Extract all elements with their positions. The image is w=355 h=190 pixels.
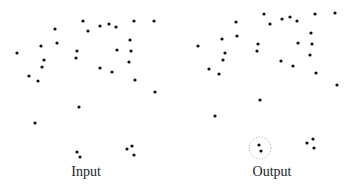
data-point [127,60,130,63]
input-panel [15,19,156,158]
data-point [152,19,155,22]
data-point [311,137,314,140]
data-point [40,65,43,68]
data-point [75,150,78,153]
data-point [335,83,338,86]
data-point [217,72,220,75]
data-point [132,153,135,156]
data-point [223,51,226,54]
data-point [125,147,128,150]
data-point [153,90,156,93]
scatter-diagram [0,0,355,190]
data-point [196,44,199,47]
data-point [296,41,299,44]
data-point [133,78,136,81]
data-point [128,38,131,41]
data-point [234,20,237,23]
data-point [107,22,110,25]
data-point [39,44,42,47]
data-point [129,49,132,52]
data-point [86,29,89,32]
data-point [115,48,118,51]
data-point [77,105,80,108]
data-point [213,114,216,117]
data-point [75,49,78,52]
data-point [33,121,36,124]
data-point [259,149,262,152]
input-label: Input [71,164,101,180]
data-point [291,64,294,67]
data-point [110,70,113,73]
data-point [288,15,291,18]
data-point [207,67,210,70]
data-point [258,98,261,101]
data-point [235,34,238,37]
data-point [280,17,283,20]
data-point [36,79,39,82]
highlight-circle [249,137,271,159]
data-point [53,27,56,30]
data-point [256,42,259,45]
data-point [15,51,18,54]
data-point [74,56,77,59]
data-point [257,143,260,146]
data-point [310,42,313,45]
data-point [114,25,117,28]
data-point [313,12,316,15]
data-point [314,71,317,74]
output-panel [196,11,338,159]
data-point [55,41,58,44]
data-point [78,155,81,158]
data-point [132,19,135,22]
data-point [262,12,265,15]
data-point [130,144,133,147]
data-point [333,11,336,14]
data-point [220,37,223,40]
data-point [42,58,45,61]
output-label: Output [253,164,292,180]
data-point [268,22,271,25]
data-point [98,66,101,69]
data-point [295,19,298,22]
data-point [308,53,311,56]
data-point [255,49,258,52]
data-point [312,146,315,149]
data-point [221,58,224,61]
data-point [309,31,312,34]
data-point [81,19,84,22]
data-point [27,74,30,77]
data-point [98,24,101,27]
data-point [305,141,308,144]
data-point [279,59,282,62]
